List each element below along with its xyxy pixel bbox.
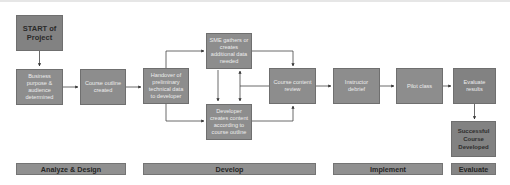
content-review-box: Course content review	[269, 68, 316, 104]
content-review-label: Course content review	[272, 79, 313, 93]
phase-analyze-label: Analyze & Design	[41, 165, 101, 174]
business-purpose-label: Business purpose & audience determined	[19, 73, 60, 101]
start-label: START of Project	[19, 24, 60, 42]
phase-implement-label: Implement	[370, 165, 406, 174]
developer-label: Developer creates content according to c…	[209, 108, 249, 136]
sme-label: SME gathers or creates additional data n…	[209, 37, 249, 65]
course-outline-label: Course outline created	[83, 80, 123, 94]
start-box: START of Project	[16, 15, 63, 51]
phase-develop-label: Develop	[216, 165, 244, 174]
evaluate-results-label: Evaluate results	[456, 79, 493, 93]
instructor-debrief-label: Instructor debrief	[336, 79, 377, 93]
phase-implement: Implement	[333, 163, 443, 175]
pilot-class-label: Pilot class	[407, 83, 432, 90]
phase-evaluate: Evaluate	[451, 163, 496, 175]
evaluate-results-box: Evaluate results	[453, 68, 496, 104]
success-box: Successful Course Developed	[451, 121, 496, 157]
handover-label: Handover of preliminary technical data t…	[146, 72, 186, 100]
phase-develop: Develop	[143, 163, 316, 175]
sme-box: SME gathers or creates additional data n…	[206, 33, 252, 69]
developer-box: Developer creates content according to c…	[206, 104, 252, 140]
phase-evaluate-label: Evaluate	[459, 165, 489, 174]
handover-box: Handover of preliminary technical data t…	[143, 68, 189, 104]
business-purpose-box: Business purpose & audience determined	[16, 69, 63, 105]
phase-analyze-design: Analyze & Design	[16, 163, 126, 175]
course-outline-box: Course outline created	[80, 69, 126, 105]
instructor-debrief-box: Instructor debrief	[333, 68, 380, 104]
success-label: Successful Course Developed	[454, 127, 493, 151]
pilot-class-box: Pilot class	[396, 68, 443, 104]
